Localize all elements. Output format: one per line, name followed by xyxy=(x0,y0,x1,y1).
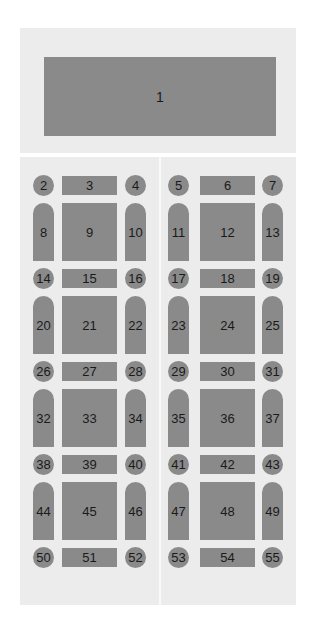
block-32[interactable]: 32 xyxy=(33,389,54,447)
block-3[interactable]: 3 xyxy=(62,176,117,195)
block-38[interactable]: 38 xyxy=(33,454,54,475)
block-15[interactable]: 15 xyxy=(62,269,117,288)
block-55[interactable]: 55 xyxy=(262,547,283,568)
block-18[interactable]: 18 xyxy=(200,269,255,288)
block-30[interactable]: 30 xyxy=(200,362,255,381)
block-39[interactable]: 39 xyxy=(62,455,117,474)
block-24[interactable]: 24 xyxy=(200,296,255,354)
block-27[interactable]: 27 xyxy=(62,362,117,381)
block-49[interactable]: 49 xyxy=(262,482,283,540)
block-41[interactable]: 41 xyxy=(168,454,189,475)
block-14[interactable]: 14 xyxy=(33,268,54,289)
center-divider xyxy=(159,157,161,605)
block-7[interactable]: 7 xyxy=(262,175,283,196)
block-36[interactable]: 36 xyxy=(200,389,255,447)
block-47[interactable]: 47 xyxy=(168,482,189,540)
block-6[interactable]: 6 xyxy=(200,176,255,195)
block-23[interactable]: 23 xyxy=(168,296,189,354)
block-33[interactable]: 33 xyxy=(62,389,117,447)
block-25[interactable]: 25 xyxy=(262,296,283,354)
block-50[interactable]: 50 xyxy=(33,547,54,568)
block-34[interactable]: 34 xyxy=(125,389,146,447)
block-26[interactable]: 26 xyxy=(33,361,54,382)
block-54[interactable]: 54 xyxy=(200,548,255,567)
block-8[interactable]: 8 xyxy=(33,203,54,261)
block-44[interactable]: 44 xyxy=(33,482,54,540)
block-37[interactable]: 37 xyxy=(262,389,283,447)
block-16[interactable]: 16 xyxy=(125,268,146,289)
block-35[interactable]: 35 xyxy=(168,389,189,447)
block-43[interactable]: 43 xyxy=(262,454,283,475)
block-9[interactable]: 9 xyxy=(62,203,117,261)
block-22[interactable]: 22 xyxy=(125,296,146,354)
block-52[interactable]: 52 xyxy=(125,547,146,568)
block-10[interactable]: 10 xyxy=(125,203,146,261)
block-5[interactable]: 5 xyxy=(168,175,189,196)
block-28[interactable]: 28 xyxy=(125,361,146,382)
block-46[interactable]: 46 xyxy=(125,482,146,540)
block-53[interactable]: 53 xyxy=(168,547,189,568)
block-11[interactable]: 11 xyxy=(168,203,189,261)
block-1[interactable]: 1 xyxy=(44,57,276,136)
block-45[interactable]: 45 xyxy=(62,482,117,540)
block-48[interactable]: 48 xyxy=(200,482,255,540)
block-51[interactable]: 51 xyxy=(62,548,117,567)
block-2[interactable]: 2 xyxy=(33,175,54,196)
block-21[interactable]: 21 xyxy=(62,296,117,354)
block-40[interactable]: 40 xyxy=(125,454,146,475)
block-4[interactable]: 4 xyxy=(125,175,146,196)
block-17[interactable]: 17 xyxy=(168,268,189,289)
block-19[interactable]: 19 xyxy=(262,268,283,289)
block-20[interactable]: 20 xyxy=(33,296,54,354)
block-13[interactable]: 13 xyxy=(262,203,283,261)
block-31[interactable]: 31 xyxy=(262,361,283,382)
block-12[interactable]: 12 xyxy=(200,203,255,261)
block-29[interactable]: 29 xyxy=(168,361,189,382)
block-42[interactable]: 42 xyxy=(200,455,255,474)
